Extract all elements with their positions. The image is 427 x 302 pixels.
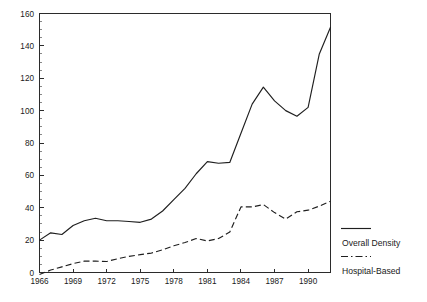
legend-label-hospital-based: Hospital-Based: [342, 266, 400, 276]
chart-legend: Overall Density Hospital-Based: [341, 229, 401, 276]
y-axis-major-ticks: [40, 14, 45, 273]
x-tick-label: 1966: [30, 277, 49, 286]
y-tick-label: 20: [25, 236, 35, 245]
x-tick-label: 1975: [131, 277, 150, 286]
x-axis-tick-labels: 196619691972197519781981198419871990: [30, 277, 317, 286]
x-tick-label: 1969: [64, 277, 83, 286]
x-tick-label: 1990: [299, 277, 318, 286]
series-line-overall-density: [40, 27, 331, 240]
y-tick-label: 100: [20, 107, 34, 116]
y-axis-tick-labels: 020406080100120140160: [20, 10, 34, 278]
x-tick-label: 1978: [165, 277, 184, 286]
x-axis-major-ticks: [40, 269, 309, 273]
line-chart: 020406080100120140160 196619691972197519…: [0, 0, 427, 302]
y-tick-label: 80: [25, 139, 35, 148]
series-line-hospital-based: [40, 201, 331, 274]
y-tick-label: 60: [25, 171, 35, 180]
axis-frame: [40, 14, 331, 273]
x-tick-label: 1981: [198, 277, 217, 286]
chart-container: 020406080100120140160 196619691972197519…: [0, 0, 427, 302]
y-tick-label: 160: [20, 10, 34, 19]
y-tick-label: 140: [20, 42, 34, 51]
y-tick-label: 40: [25, 204, 35, 213]
legend-label-overall-density: Overall Density: [342, 238, 401, 248]
y-tick-label: 120: [20, 74, 34, 83]
x-tick-label: 1972: [98, 277, 117, 286]
x-tick-label: 1987: [265, 277, 284, 286]
x-tick-label: 1984: [232, 277, 251, 286]
